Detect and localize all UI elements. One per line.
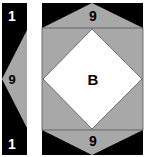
center-label: B bbox=[88, 71, 99, 88]
left-panel: 1 9 1 bbox=[2, 3, 27, 155]
right-top-label: 9 bbox=[89, 8, 97, 24]
right-bottom-label: 9 bbox=[89, 133, 97, 149]
left-middle-label: 9 bbox=[8, 72, 15, 87]
left-bottom-label: 1 bbox=[8, 136, 16, 152]
left-top-label: 1 bbox=[8, 8, 16, 24]
right-panel: 9 B 9 bbox=[42, 3, 143, 155]
quilt-block-diagram: 1 9 1 9 B 9 bbox=[0, 0, 145, 157]
